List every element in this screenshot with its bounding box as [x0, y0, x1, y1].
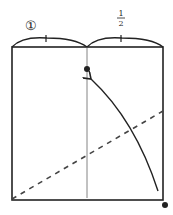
marker-label: ① [25, 18, 37, 33]
fraction-numerator: 1 [118, 9, 123, 18]
target-dot [84, 66, 90, 72]
measure-arc-left [12, 38, 87, 47]
corner-dot [162, 202, 168, 208]
measure-arc-right [87, 38, 163, 47]
fold-diagram: ① 1 2 [0, 0, 173, 215]
dashed-fold-line [12, 111, 163, 199]
fold-arrow [91, 79, 158, 191]
fraction-denominator: 2 [118, 19, 123, 28]
